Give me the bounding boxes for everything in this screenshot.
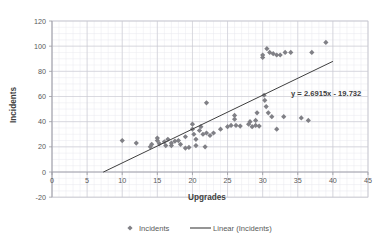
y-tick-label: 80 [38, 67, 46, 76]
chart-background [0, 0, 382, 245]
x-tick-label: 45 [364, 176, 372, 185]
scatter-chart: -20020406080100120 051015202530354045 Up… [0, 0, 382, 245]
y-tick-label: 60 [38, 92, 46, 101]
y-tick-label: -20 [36, 193, 46, 202]
legend-linear-label: Linear (Incidents) [213, 224, 272, 233]
x-tick-label: 5 [85, 176, 89, 185]
y-tick-label: 40 [38, 117, 46, 126]
chart-canvas: -20020406080100120 051015202530354045 Up… [0, 0, 382, 245]
x-tick-label: 0 [50, 176, 54, 185]
x-tick-label: 35 [294, 176, 302, 185]
x-tick-label: 20 [188, 176, 196, 185]
legend-incidents-label: Incidents [139, 224, 170, 233]
x-tick-label: 15 [153, 176, 161, 185]
x-axis-title: Upgrades [188, 193, 226, 202]
x-tick-label: 30 [259, 176, 267, 185]
x-tick-label: 10 [118, 176, 126, 185]
y-tick-label: 120 [34, 17, 46, 26]
x-tick-label: 40 [329, 176, 337, 185]
y-tick-label: 100 [34, 42, 46, 51]
y-tick-label: 20 [38, 142, 46, 151]
y-tick-label: 0 [42, 168, 46, 177]
y-axis-title: Incidents [9, 87, 18, 123]
trendline-equation-label: y = 2.6915x - 19.732 [291, 89, 361, 98]
x-tick-label: 25 [224, 176, 232, 185]
